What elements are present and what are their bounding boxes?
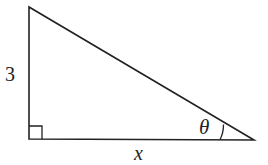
triangle-outline [29, 7, 254, 140]
angle-label-theta: θ [199, 117, 209, 138]
side-label-horizontal: x [134, 143, 143, 163]
angle-arc [220, 125, 224, 140]
triangle-figure [0, 0, 268, 165]
side-label-vertical: 3 [5, 64, 15, 84]
right-triangle-diagram: 3 x θ [0, 0, 268, 165]
right-angle-marker [29, 126, 42, 139]
